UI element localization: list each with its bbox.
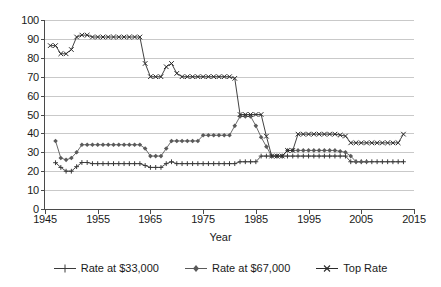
series-layer <box>0 0 441 287</box>
plus-marker <box>169 159 174 164</box>
x-marker <box>174 71 179 76</box>
series-0 <box>53 154 406 174</box>
diamond-marker <box>90 142 95 147</box>
plus-marker <box>122 161 127 166</box>
plus-marker <box>201 161 206 166</box>
plus-marker <box>338 154 343 159</box>
diamond-marker <box>106 142 111 147</box>
diamond-marker <box>333 148 338 153</box>
diamond-marker <box>122 142 127 147</box>
diamond-marker <box>111 142 116 147</box>
diamond-marker <box>317 148 322 153</box>
plus-marker <box>190 161 195 166</box>
plus-marker <box>385 159 390 164</box>
plus-marker <box>85 160 90 165</box>
diamond-marker <box>185 139 190 144</box>
plus-marker <box>222 161 227 166</box>
plus-marker <box>106 161 111 166</box>
plus-marker <box>243 159 248 164</box>
plus-marker <box>232 161 237 166</box>
series-1 <box>53 114 369 164</box>
diamond-marker <box>232 124 237 129</box>
legend-item-rate-67000[interactable]: Rate at $67,000 <box>185 262 290 274</box>
legend-item-top-rate[interactable]: Top Rate <box>316 262 387 274</box>
legend-item-rate-33000[interactable]: Rate at $33,000 <box>54 262 159 274</box>
chart-legend: Rate at $33,000 Rate at $67,000 Top Rate <box>0 262 441 274</box>
diamond-marker-icon <box>185 263 207 274</box>
diamond-marker <box>174 139 179 144</box>
diamond-marker <box>53 139 58 144</box>
diamond-marker <box>222 133 227 138</box>
plus-marker <box>311 154 316 159</box>
diamond-marker <box>264 144 269 149</box>
x-marker <box>164 64 169 69</box>
diamond-marker <box>322 148 327 153</box>
legend-label-rate-33000: Rate at $33,000 <box>81 262 159 274</box>
diamond-marker <box>359 159 364 164</box>
diamond-marker <box>117 142 122 147</box>
series-2 <box>48 33 406 159</box>
legend-label-rate-67000: Rate at $67,000 <box>212 262 290 274</box>
plus-marker <box>333 154 338 159</box>
plus-marker <box>185 161 190 166</box>
diamond-marker <box>59 156 64 161</box>
diamond-marker <box>312 148 317 153</box>
diamond-marker <box>64 158 69 163</box>
diamond-marker <box>217 133 222 138</box>
diamond-marker <box>296 148 301 153</box>
diamond-marker <box>227 133 232 138</box>
plus-marker <box>90 161 95 166</box>
plus-marker <box>290 154 295 159</box>
diamond-marker <box>206 133 211 138</box>
plus-marker <box>306 154 311 159</box>
plus-marker <box>95 161 100 166</box>
plus-marker <box>396 159 401 164</box>
plus-marker <box>248 159 253 164</box>
diamond-marker <box>364 159 369 164</box>
plus-marker <box>101 161 106 166</box>
plus-marker-icon <box>54 263 76 274</box>
plus-marker <box>206 161 211 166</box>
plus-marker <box>301 154 306 159</box>
diamond-marker <box>211 133 216 138</box>
diamond-marker <box>327 148 332 153</box>
plus-marker <box>296 154 301 159</box>
legend-label-top-rate: Top Rate <box>343 262 387 274</box>
diamond-marker <box>301 148 306 153</box>
series-line <box>56 116 367 161</box>
plus-marker <box>327 154 332 159</box>
diamond-marker <box>338 149 343 154</box>
plus-marker <box>211 161 216 166</box>
diamond-marker <box>259 135 264 140</box>
plus-marker <box>132 161 137 166</box>
plus-marker <box>317 154 322 159</box>
plus-marker <box>380 159 385 164</box>
plus-marker <box>375 159 380 164</box>
x-marker-icon <box>316 263 338 274</box>
diamond-marker <box>306 148 311 153</box>
diamond-marker <box>132 142 137 147</box>
plus-marker <box>116 161 121 166</box>
diamond-marker <box>180 139 185 144</box>
plus-marker <box>391 159 396 164</box>
diamond-marker <box>254 124 259 129</box>
diamond-marker <box>101 142 106 147</box>
plus-marker <box>264 154 269 159</box>
tax-rate-line-chart: 0102030405060708090100 19451955196519751… <box>0 0 441 287</box>
plus-marker <box>238 159 243 164</box>
plus-marker <box>153 165 158 170</box>
plus-marker <box>174 161 179 166</box>
diamond-marker <box>127 142 132 147</box>
plus-marker <box>369 159 374 164</box>
plus-marker <box>227 161 232 166</box>
diamond-marker <box>85 142 90 147</box>
plus-marker <box>322 154 327 159</box>
plus-marker <box>180 161 185 166</box>
plus-marker <box>111 161 116 166</box>
plus-marker <box>127 161 132 166</box>
diamond-marker <box>190 139 195 144</box>
plus-marker <box>217 161 222 166</box>
diamond-marker <box>153 154 158 159</box>
diamond-marker <box>95 142 100 147</box>
series-line <box>50 35 403 156</box>
